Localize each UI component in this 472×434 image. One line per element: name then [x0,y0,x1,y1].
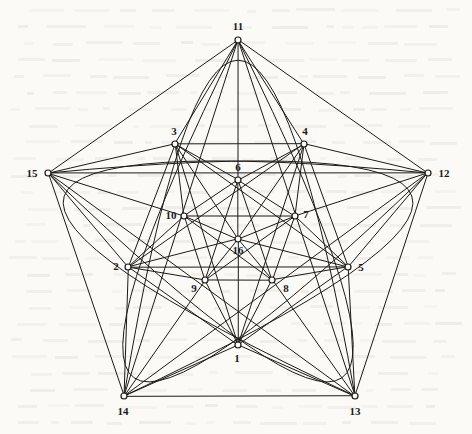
vertex-node-6 [235,177,241,183]
vertex-label-8: 8 [283,282,289,294]
vertex-node-7 [292,213,298,219]
vertex-node-11 [235,37,241,43]
vertex-node-14 [121,393,127,399]
vertex-node-12 [425,170,431,176]
edge-5-12 [348,173,428,267]
vertex-node-5 [345,264,351,270]
vertex-label-12: 12 [439,167,450,179]
edge-4-11 [238,40,304,144]
vertex-label-16: 16 [233,244,244,256]
edge-1-14 [124,345,238,396]
edge-1-8 [238,280,271,345]
edge-4-12 [304,144,428,173]
arc-through-15 [63,161,428,396]
vertex-label-10: 10 [166,209,177,221]
edge-6-8 [238,180,272,280]
vertex-label-9: 9 [191,282,197,294]
edge-3-11 [175,40,238,143]
vertex-node-1 [235,342,241,348]
edge-12-7 [295,173,428,216]
edge-11-12 [238,40,428,173]
vertex-label-2: 2 [113,260,119,272]
vertex-node-10 [181,213,187,219]
edge-5-1 [238,267,348,345]
vertex-label-6: 6 [235,161,241,173]
edge-2-9 [128,267,205,280]
edge-15-10 [48,173,184,216]
edge-14-15 [48,173,124,396]
vertex-label-7: 7 [303,208,309,220]
edge-13-14 [124,396,355,397]
vertex-label-14: 14 [118,405,129,417]
edge-4-1 [238,144,304,345]
vertex-node-4 [301,141,307,147]
edge-5-7 [295,216,348,267]
edge-15-11 [48,40,238,173]
edge-12-13 [355,173,428,396]
pentagon-configuration-figure [0,0,472,434]
edge-8-10 [184,216,272,280]
vertex-label-3: 3 [171,125,177,137]
vertex-node-13 [352,393,358,399]
vertex-label-4: 4 [302,125,308,137]
edge-5-8 [272,267,348,280]
vertex-node-15 [45,170,51,176]
vertex-label-15: 15 [27,167,38,179]
vertex-node-9 [202,277,208,283]
edge-16-7 [238,216,295,239]
edge-9-6 [205,180,238,280]
vertex-node-3 [172,141,178,147]
edge-4-5 [304,144,348,267]
vertex-label-11: 11 [233,20,243,32]
edge-7-9 [205,216,295,280]
vertex-node-16 [235,236,241,242]
vertex-node-2 [125,264,131,270]
vertex-label-5: 5 [358,261,364,273]
vertex-label-13: 13 [350,405,361,417]
arc-through-12 [48,161,413,396]
edge-14-11 [124,40,238,396]
diagram-page: 12345678910111213141516 [0,0,472,434]
edge-2-15 [48,173,128,268]
edge-1-9 [205,280,238,345]
vertex-label-1: 1 [234,352,240,364]
edge-16-4 [238,144,304,239]
vertex-node-8 [269,277,275,283]
edge-16-3 [175,144,238,238]
edge-1-13 [238,345,355,397]
